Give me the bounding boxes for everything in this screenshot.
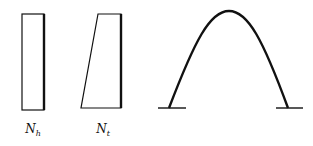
label-main: N (25, 122, 36, 136)
arch-shape (158, 11, 303, 108)
trapezoid-shape (81, 14, 121, 108)
label-subscript: h (36, 129, 41, 138)
rectangle-shape (22, 14, 44, 110)
label-n-h: Nh (25, 122, 41, 138)
diagram-canvas (0, 0, 313, 146)
label-main: N (96, 122, 107, 136)
label-n-t: Nt (96, 122, 110, 138)
label-subscript: t (107, 129, 110, 138)
